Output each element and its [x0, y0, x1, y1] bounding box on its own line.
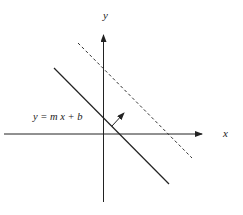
- dashed-line: [78, 43, 192, 158]
- normal-arrow: [112, 113, 124, 126]
- x-axis-label: x: [222, 127, 228, 139]
- line-equation-label: y = m x + b: [32, 111, 82, 122]
- solid-line: [54, 68, 169, 184]
- line-diagram: y x y = m x + b: [0, 0, 243, 215]
- y-axis-label: y: [102, 9, 108, 21]
